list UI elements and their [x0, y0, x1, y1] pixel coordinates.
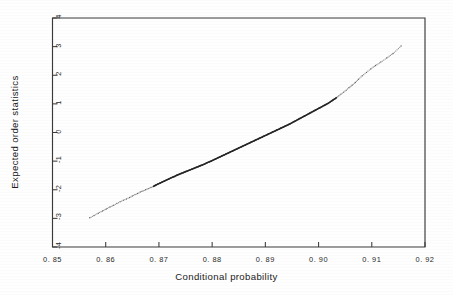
y-tick-label: -3 [53, 211, 62, 223]
x-tick-label: 0. 85 [43, 255, 62, 264]
y-tick-label: 4 [53, 11, 62, 23]
y-tick-label: 2 [53, 68, 62, 80]
x-axis-title: Conditional probability [0, 271, 453, 282]
axis-frame [53, 18, 426, 247]
y-tick-label: 3 [53, 39, 62, 51]
x-axis-tick-marks [53, 242, 426, 247]
y-axis-title: Expected order statistics [8, 17, 22, 247]
x-tick-label: 0. 89 [256, 255, 275, 264]
x-tick-label: 0. 86 [96, 255, 115, 264]
y-tick-label: 0 [53, 125, 62, 137]
scan-grain-overlay [0, 0, 453, 295]
y-tick-label: -4 [53, 240, 62, 252]
x-tick-label: 0. 92 [416, 255, 435, 264]
y-tick-label: -1 [53, 154, 62, 166]
figure-canvas: 0. 850. 860. 870. 880. 890. 900. 910. 92… [0, 0, 453, 295]
y-tick-label: 1 [53, 96, 62, 108]
plot-area [0, 0, 453, 295]
x-tick-label: 0. 87 [149, 255, 168, 264]
x-tick-label: 0. 90 [309, 255, 328, 264]
x-tick-label: 0. 88 [203, 255, 222, 264]
y-tick-label: -2 [53, 182, 62, 194]
x-tick-label: 0. 91 [362, 255, 381, 264]
data-series-dots [89, 45, 402, 218]
